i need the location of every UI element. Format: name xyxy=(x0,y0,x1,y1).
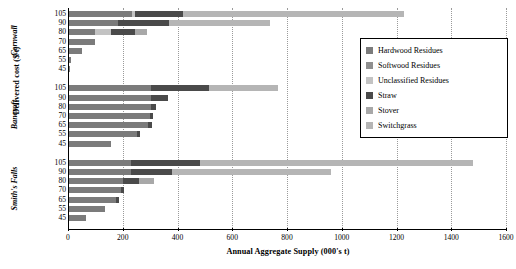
bar-cornwall-105: 105 xyxy=(69,11,404,17)
bar-smith-s-falls-45: 45 xyxy=(69,215,86,221)
bar-segment xyxy=(95,29,111,35)
chart-legend: Hardwood ResiduesSoftwood ResiduesUnclas… xyxy=(360,38,508,138)
x-axis-tick-label: 600 xyxy=(212,233,252,242)
bar-segment xyxy=(69,48,82,54)
x-axis-line xyxy=(68,229,506,230)
legend-item-straw: Straw xyxy=(366,88,502,103)
x-axis-tick-label: 1000 xyxy=(322,233,362,242)
bar-segment xyxy=(69,85,151,91)
bar-segment xyxy=(151,85,208,91)
bar-bancroft-45: 45 xyxy=(69,141,111,147)
y-axis-tick-label: 45 xyxy=(44,141,66,147)
y-axis-tick-label: 65 xyxy=(44,197,66,203)
bar-segment xyxy=(69,131,137,137)
legend-label: Stover xyxy=(378,106,399,115)
legend-item-switchgrass: Switchgrass xyxy=(366,118,502,133)
bar-cornwall-55: 55 xyxy=(69,57,71,63)
x-axis-title: Annual Aggregate Supply (000's t) xyxy=(68,247,508,256)
legend-swatch-icon xyxy=(366,92,373,99)
legend-swatch-icon xyxy=(366,77,373,84)
bar-segment xyxy=(69,122,148,128)
bar-segment xyxy=(69,11,132,17)
bar-segment xyxy=(69,29,95,35)
bar-segment xyxy=(121,187,124,193)
x-axis-tick xyxy=(506,228,507,231)
y-axis-tick-label: 80 xyxy=(44,178,66,184)
group-label-bancroft: Bancroft xyxy=(10,83,19,147)
y-axis-tick-label: 90 xyxy=(44,20,66,26)
bar-segment xyxy=(69,104,151,110)
legend-label: Hardwood Residues xyxy=(378,46,443,55)
bar-bancroft-80: 80 xyxy=(69,104,156,110)
x-axis-tick-label: 400 xyxy=(158,233,198,242)
bar-segment xyxy=(116,197,119,203)
legend-item-unclassified-residues: Unclassified Residues xyxy=(366,73,502,88)
bar-cornwall-45: 45 xyxy=(69,66,70,72)
bar-segment xyxy=(69,169,131,175)
x-axis-tick-label: 200 xyxy=(103,233,143,242)
bar-smith-s-falls-55: 55 xyxy=(69,206,105,212)
y-axis-tick-label: 105 xyxy=(44,11,66,17)
bar-segment xyxy=(69,215,86,221)
legend-label: Softwood Residues xyxy=(378,61,440,70)
bar-bancroft-70: 70 xyxy=(69,113,153,119)
bar-segment xyxy=(151,95,168,101)
bar-smith-s-falls-70: 70 xyxy=(69,187,124,193)
bar-segment xyxy=(69,178,123,184)
y-axis-tick-label: 80 xyxy=(44,29,66,35)
x-axis-tick-label: 0 xyxy=(48,233,88,242)
gridline xyxy=(123,8,124,230)
y-axis-tick-label: 55 xyxy=(44,131,66,137)
y-axis-tick-label: 70 xyxy=(44,187,66,193)
bar-segment xyxy=(151,104,156,110)
bar-smith-s-falls-65: 65 xyxy=(69,197,119,203)
bar-segment xyxy=(69,141,111,147)
bar-segment xyxy=(131,160,200,166)
legend-item-softwood-residues: Softwood Residues xyxy=(366,58,502,73)
x-axis-tick-label: 800 xyxy=(267,233,307,242)
bar-segment xyxy=(69,66,70,72)
y-axis-tick-label: 105 xyxy=(44,160,66,166)
bar-bancroft-65: 65 xyxy=(69,122,152,128)
legend-swatch-icon xyxy=(366,47,373,54)
stacked-bar-chart: Delivered cost ($/t) 0200400600800100012… xyxy=(0,0,516,269)
bar-segment xyxy=(69,57,71,63)
bar-segment xyxy=(183,11,405,17)
bar-smith-s-falls-90: 90 xyxy=(69,169,331,175)
y-axis-tick-label: 80 xyxy=(44,104,66,110)
x-axis-tick-label: 1200 xyxy=(377,233,417,242)
legend-item-hardwood-residues: Hardwood Residues xyxy=(366,43,502,58)
bar-cornwall-70: 70 xyxy=(69,39,95,45)
bar-segment xyxy=(69,197,116,203)
bar-segment xyxy=(69,206,105,212)
legend-label: Unclassified Residues xyxy=(378,76,449,85)
bar-segment xyxy=(209,85,279,91)
bar-segment xyxy=(169,20,270,26)
bar-smith-s-falls-80: 80 xyxy=(69,178,154,184)
bar-bancroft-55: 55 xyxy=(69,131,140,137)
bar-segment xyxy=(69,95,151,101)
bar-smith-s-falls-105: 105 xyxy=(69,160,473,166)
x-axis-tick-label: 1400 xyxy=(431,233,471,242)
gridline xyxy=(287,8,288,230)
y-axis-tick-label: 65 xyxy=(44,122,66,128)
legend-label: Switchgrass xyxy=(378,121,417,130)
bar-segment xyxy=(69,113,150,119)
x-axis-tick-label: 1600 xyxy=(486,233,516,242)
bar-segment xyxy=(200,160,472,166)
gridline xyxy=(178,8,179,230)
y-axis-tick-label: 55 xyxy=(44,206,66,212)
legend-swatch-icon xyxy=(366,122,373,129)
gridline xyxy=(342,8,343,230)
group-label-smith-s-falls: Smith's Falls xyxy=(10,157,19,221)
bar-segment xyxy=(69,39,95,45)
y-axis-tick-label: 45 xyxy=(44,66,66,72)
legend-item-stover: Stover xyxy=(366,103,502,118)
bar-segment xyxy=(137,131,140,137)
bar-segment xyxy=(172,169,331,175)
bar-cornwall-90: 90 xyxy=(69,20,270,26)
y-axis-tick-label: 105 xyxy=(44,85,66,91)
bar-bancroft-105: 105 xyxy=(69,85,278,91)
group-label-cornwall: Cornwall xyxy=(10,8,19,72)
y-axis-tick-label: 65 xyxy=(44,48,66,54)
